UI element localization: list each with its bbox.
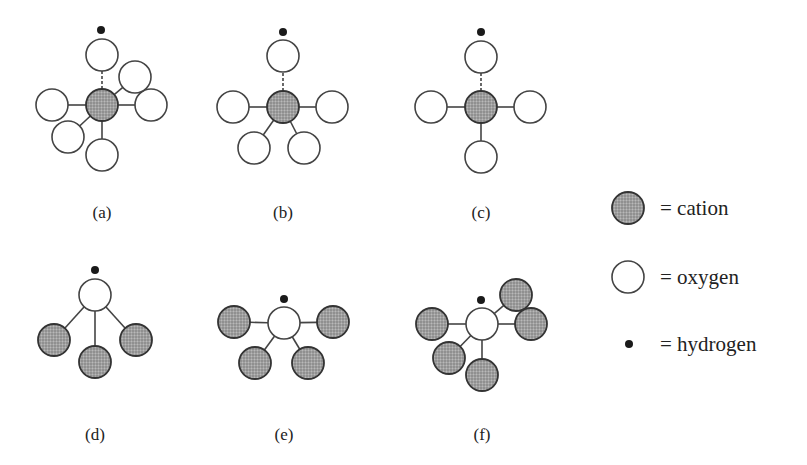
legend-item-cation: = cation [612, 192, 729, 224]
bond-line [80, 116, 91, 126]
coordination-diagram: (a)(b)(c)(d)(e)(f) = cation = oxygen = h… [0, 0, 807, 465]
panel-label-d: (d) [85, 425, 105, 444]
panels-group: (a)(b)(c)(d)(e)(f) [36, 26, 547, 444]
bond-line [114, 87, 123, 94]
cation-atom [500, 279, 532, 311]
oxygen-atom [36, 89, 68, 121]
cation-atom [38, 324, 70, 356]
central-oxygen-atom [79, 279, 111, 311]
cation-atom [416, 308, 448, 340]
oxygen-atom [415, 91, 447, 123]
cation-atom [466, 359, 498, 391]
legend-label-oxygen: = oxygen [660, 265, 739, 289]
oxygen-atom [288, 132, 320, 164]
legend: = cation = oxygen = hydrogen [612, 192, 757, 356]
legend-label-hydrogen: = hydrogen [660, 332, 757, 356]
bond-line [106, 307, 125, 328]
hydrogen-atom [97, 26, 105, 34]
hydrogen-atom [279, 28, 287, 36]
oxygen-atom [514, 91, 546, 123]
oxygen-atom [465, 41, 497, 73]
panel-f: (f) [416, 279, 547, 444]
panel-d: (d) [38, 266, 152, 444]
cation-atom [515, 308, 547, 340]
panel-b: (b) [217, 28, 348, 222]
panel-a: (a) [36, 26, 167, 222]
central-cation-atom [86, 89, 118, 121]
hydrogen-atom [280, 295, 288, 303]
oxygen-atom [465, 141, 497, 173]
oxygen-icon [612, 261, 644, 293]
cation-atom [79, 346, 111, 378]
oxygen-atom [86, 139, 118, 171]
cation-atom [433, 342, 465, 374]
bond-line [290, 121, 296, 134]
central-cation-atom [267, 91, 299, 123]
bond-line [263, 120, 274, 135]
hydrogen-atom [477, 28, 485, 36]
oxygen-atom [267, 40, 299, 72]
cation-atom [120, 324, 152, 356]
bond-line [494, 305, 504, 313]
oxygen-atom [52, 121, 84, 153]
legend-label-cation: = cation [660, 196, 729, 220]
bond-line [292, 337, 300, 350]
oxygen-atom [86, 39, 118, 71]
cation-icon [612, 192, 644, 224]
cation-atom [317, 306, 349, 338]
legend-item-oxygen: = oxygen [612, 261, 739, 293]
oxygen-atom [238, 132, 270, 164]
bond-line [264, 336, 274, 350]
hydrogen-atom [477, 296, 485, 304]
cation-atom [218, 306, 250, 338]
panel-label-f: (f) [474, 425, 491, 444]
panel-label-b: (b) [273, 203, 293, 222]
panel-label-a: (a) [93, 203, 112, 222]
legend-item-hydrogen: = hydrogen [625, 332, 757, 356]
central-cation-atom [465, 91, 497, 123]
panel-e: (e) [218, 295, 349, 444]
bond-line [65, 307, 84, 328]
hydrogen-icon [625, 340, 633, 348]
oxygen-atom [119, 61, 151, 93]
panel-label-e: (e) [275, 425, 294, 444]
oxygen-atom [217, 91, 249, 123]
bond-line [460, 335, 471, 346]
panel-label-c: (c) [472, 203, 491, 222]
central-oxygen-atom [268, 307, 300, 339]
central-oxygen-atom [466, 308, 498, 340]
cation-atom [239, 347, 271, 379]
oxygen-atom [135, 89, 167, 121]
oxygen-atom [316, 91, 348, 123]
hydrogen-atom [91, 266, 99, 274]
panel-c: (c) [415, 28, 546, 222]
cation-atom [292, 347, 324, 379]
